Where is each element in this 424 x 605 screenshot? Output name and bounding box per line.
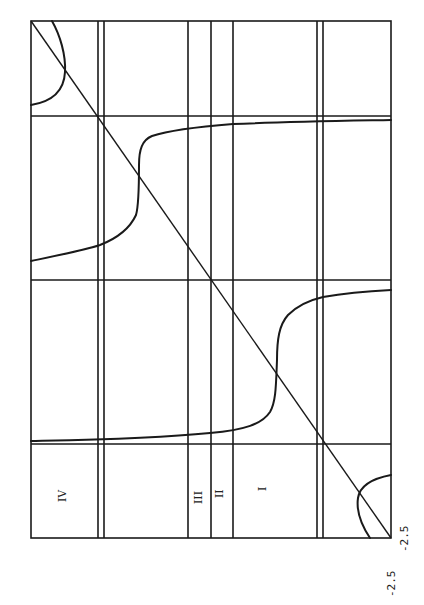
region-label-iv: IV bbox=[56, 489, 69, 502]
phase-plot: IV III II I -2.5 -2.5 bbox=[0, 0, 424, 605]
tick-label-right: -2.5 bbox=[398, 526, 411, 553]
region-label-iii: III bbox=[192, 491, 205, 504]
tick-label-bottom: -2.5 bbox=[385, 571, 398, 598]
region-label-i: I bbox=[256, 487, 269, 491]
bottom-right-curve bbox=[358, 475, 391, 538]
region-label-ii: II bbox=[213, 489, 226, 498]
